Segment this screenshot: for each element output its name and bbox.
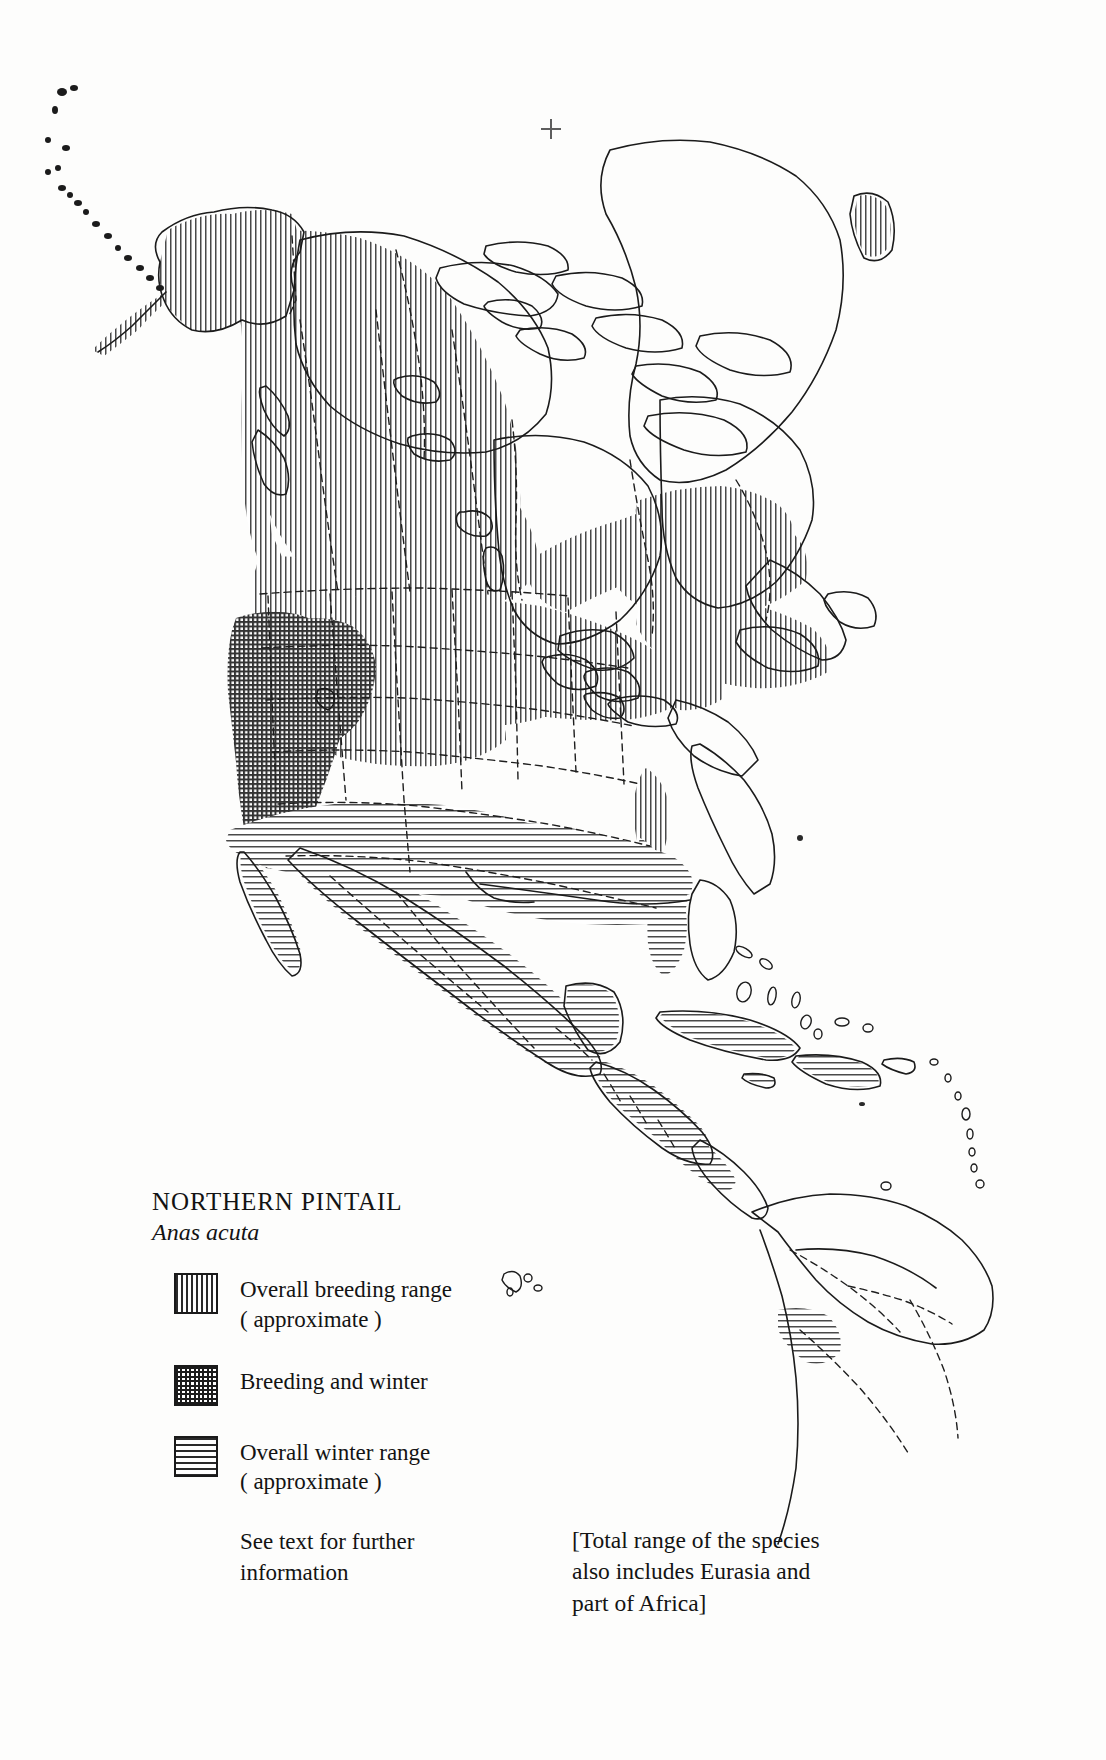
see-text-note-line1: See text for further (240, 1527, 622, 1557)
legend-label-winter-line2: ( approximate ) (240, 1467, 430, 1497)
total-range-note: [Total range of the species also include… (572, 1525, 972, 1619)
swatch-winter-range-icon (174, 1436, 218, 1477)
registration-crosshair-icon: + (541, 119, 561, 139)
total-range-note-line3: part of Africa] (572, 1588, 972, 1619)
legend-label-breeding-line2: ( approximate ) (240, 1305, 452, 1335)
species-scientific-name: Anas acuta (152, 1218, 622, 1247)
legend-label-breeding: Overall breeding range ( approximate ) (240, 1273, 452, 1335)
total-range-note-line2: also includes Eurasia and (572, 1556, 972, 1587)
legend-label-winter-line1: Overall winter range (240, 1440, 430, 1465)
see-text-note-line2: information (240, 1558, 622, 1588)
map-legend: NORTHERN PINTAIL Anas acuta Overall bree… (152, 1188, 622, 1588)
legend-label-breeding-and-winter: Breeding and winter (240, 1365, 428, 1397)
legend-label-winter: Overall winter range ( approximate ) (240, 1436, 430, 1498)
swatch-breeding-and-winter-icon (174, 1365, 218, 1406)
registration-mark-glyph: + (541, 119, 542, 120)
legend-label-breeding-line1: Overall breeding range (240, 1277, 452, 1302)
legend-items: Overall breeding range ( approximate ) B… (152, 1273, 622, 1498)
legend-item-breeding-and-winter: Breeding and winter (152, 1365, 622, 1406)
see-text-note: See text for further information (240, 1527, 622, 1588)
legend-item-winter: Overall winter range ( approximate ) (152, 1436, 622, 1498)
legend-label-breeding-and-winter-line1: Breeding and winter (240, 1369, 428, 1394)
species-common-name: NORTHERN PINTAIL (152, 1188, 622, 1216)
range-map-page: + NORTHERN PINTAIL Anas acuta Overall br… (0, 0, 1106, 1760)
legend-item-breeding: Overall breeding range ( approximate ) (152, 1273, 622, 1335)
swatch-breeding-range-icon (174, 1273, 218, 1314)
total-range-note-line1: [Total range of the species (572, 1525, 972, 1556)
